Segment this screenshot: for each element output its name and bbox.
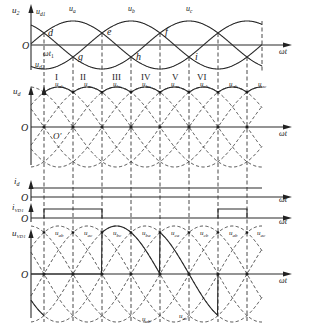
ivd1-label: iVD1 xyxy=(12,202,24,213)
id-label: id xyxy=(14,176,21,187)
ud-commutation-dot-4 xyxy=(159,91,162,94)
origin-label-uvd1: O xyxy=(21,269,28,280)
ua-label: ua xyxy=(69,4,76,14)
vd-top-ca: uca xyxy=(171,229,180,238)
point-e: e xyxy=(107,26,112,37)
origin-label-id: O xyxy=(21,192,28,203)
vd-top-ab: uab xyxy=(55,229,64,238)
point-i: i xyxy=(195,51,198,62)
origin-label-top: O xyxy=(22,40,29,51)
ud-seg-ab-2: uab xyxy=(229,80,238,89)
uvd1-top-dot-0 xyxy=(43,231,46,234)
ud-commutation-dot-5 xyxy=(188,91,191,94)
ud2-label: ud2 xyxy=(35,60,45,70)
ud1-label: ud1 xyxy=(36,7,46,17)
vd-top-ac: uac xyxy=(84,229,93,238)
origin-label-ud: O xyxy=(21,122,28,133)
origin-label-ivd1: O xyxy=(21,213,28,224)
wt-label-top: ωt xyxy=(279,47,288,56)
ud-commutation-dot-1 xyxy=(72,91,75,94)
y-axis-top-arrow-icon xyxy=(28,4,33,13)
ivd1-pulse-2 xyxy=(218,209,247,218)
ud-seg-ac: uac xyxy=(84,80,93,89)
vd-top-cb: ucb xyxy=(200,229,209,238)
ud-commutation-dot-2 xyxy=(101,91,104,94)
uc-label: uc xyxy=(186,4,193,14)
wt-label-id: ωt xyxy=(279,195,288,204)
uvd1-label: uVD1 xyxy=(12,228,26,239)
waveform-curves xyxy=(31,21,262,322)
u2-label: u2 xyxy=(12,5,20,16)
uvd1-top-dot-6 xyxy=(217,231,220,234)
origin-prime-label: O′ xyxy=(53,131,62,141)
ud-commutation-dot-7 xyxy=(246,91,249,94)
uvd1-top-dot-7 xyxy=(246,231,249,234)
rectifier-waveform-diagram: u2 ud1 ua ub uc O d e f g h i ωt1 ud2 ωt… xyxy=(0,0,311,334)
ud-commutation-dot-3 xyxy=(130,91,133,94)
uvd1-top-dot-3 xyxy=(130,231,133,234)
vd-top-ab-2: uab xyxy=(229,229,238,238)
vd-top-ba: uba xyxy=(142,229,151,238)
y-axis-id-arrow-icon xyxy=(28,180,33,189)
y-axis-uvd1-arrow-icon xyxy=(28,229,33,238)
y-axis-ivd1-arrow-icon xyxy=(28,203,33,212)
wt1-label: ωt1 xyxy=(43,49,54,59)
vd-bottom-ab: uab xyxy=(142,315,151,324)
uvd1-lead-in xyxy=(31,300,44,315)
point-d: d xyxy=(48,27,54,38)
vd-top-bc: ubc xyxy=(113,229,122,238)
uvd1-top-dot-2 xyxy=(101,231,104,234)
wt-label-ivd1: ωt xyxy=(279,217,288,226)
vd-top-ac-2: uac xyxy=(257,229,266,238)
ud-seg-ab: uab xyxy=(55,80,64,89)
ub-label: ub xyxy=(128,4,135,14)
uvd1-top-dot-4 xyxy=(159,231,162,234)
point-h: h xyxy=(136,51,141,62)
point-g: g xyxy=(78,51,83,62)
ud-commutation-dot-6 xyxy=(217,91,220,94)
wt-label-uvd1: ωt xyxy=(279,276,288,285)
wt-label-ud: ωt xyxy=(279,129,288,138)
uvd1-top-dot-1 xyxy=(72,231,75,234)
uvd1-waveform xyxy=(31,226,218,315)
ud-seg-ac-2: uac xyxy=(258,80,267,89)
ud-label: ud xyxy=(13,86,22,97)
uvd1-top-dot-5 xyxy=(188,231,191,234)
